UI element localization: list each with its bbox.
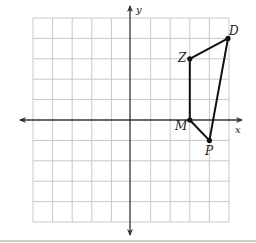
axes xyxy=(20,6,242,235)
vertex-label-z: Z xyxy=(177,51,187,65)
vertex-p xyxy=(207,138,212,143)
vertex-label-m: M xyxy=(174,119,188,133)
x-axis-label: x xyxy=(235,124,241,135)
y-axis-label: y xyxy=(135,4,142,15)
vertex-z xyxy=(187,56,192,61)
coordinate-plane: x y Z D P M xyxy=(0,0,256,243)
vertex-label-p: P xyxy=(204,144,214,158)
vertex-label-d: D xyxy=(228,24,239,38)
vertex-m xyxy=(187,117,192,122)
